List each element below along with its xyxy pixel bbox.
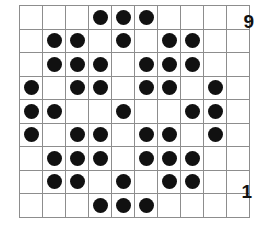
empty-cell	[204, 151, 219, 166]
dot-grid-cell	[204, 29, 227, 53]
dot-grid-cell	[181, 100, 204, 124]
filled-dot	[47, 151, 62, 166]
dot-grid-cell	[43, 147, 66, 171]
dot-grid-cell	[66, 6, 89, 30]
dot-grid-cell	[112, 29, 135, 53]
dot-grid-cell	[89, 194, 112, 218]
dot-grid-cell	[135, 123, 158, 147]
filled-dot	[47, 174, 62, 189]
dot-grid-cell	[227, 53, 250, 77]
empty-cell	[20, 10, 35, 25]
dot-grid-row	[20, 194, 250, 218]
dot-grid-cell	[89, 76, 112, 100]
dot-grid-cell	[20, 100, 43, 124]
empty-cell	[135, 174, 150, 189]
dot-grid-cell	[20, 123, 43, 147]
dot-grid-cell	[20, 53, 43, 77]
empty-cell	[112, 127, 127, 142]
axis-label-bottom-right: 1	[241, 182, 252, 201]
dot-grid-cell	[43, 6, 66, 30]
dot-grid-cell	[66, 123, 89, 147]
dot-grid-cell	[89, 29, 112, 53]
dot-grid-row	[20, 147, 250, 171]
filled-dot	[116, 10, 131, 25]
dot-grid-cell	[227, 100, 250, 124]
dot-grid-cell	[181, 194, 204, 218]
empty-cell	[66, 104, 81, 119]
filled-dot	[139, 198, 154, 213]
filled-dot	[93, 151, 108, 166]
empty-cell	[181, 198, 196, 213]
dot-grid-cell	[204, 170, 227, 194]
filled-dot	[93, 198, 108, 213]
filled-dot	[47, 33, 62, 48]
dot-grid-cell	[112, 123, 135, 147]
empty-cell	[158, 104, 173, 119]
dot-grid-cell	[135, 100, 158, 124]
filled-dot	[185, 104, 200, 119]
filled-dot	[70, 174, 85, 189]
dot-grid-cell	[66, 53, 89, 77]
dot-grid-cell	[43, 100, 66, 124]
empty-cell	[227, 174, 242, 189]
empty-cell	[204, 10, 219, 25]
empty-cell	[135, 104, 150, 119]
filled-dot	[116, 33, 131, 48]
filled-dot	[185, 57, 200, 72]
dot-grid-cell	[158, 194, 181, 218]
dot-grid-row	[20, 6, 250, 30]
dot-grid-cell	[158, 170, 181, 194]
dot-grid-cell	[66, 194, 89, 218]
filled-dot	[47, 57, 62, 72]
filled-dot	[24, 104, 39, 119]
empty-cell	[227, 80, 242, 95]
dot-grid-cell	[181, 147, 204, 171]
empty-cell	[112, 80, 127, 95]
empty-cell	[112, 57, 127, 72]
dot-grid-body	[20, 6, 250, 218]
dot-grid-cell	[181, 6, 204, 30]
dot-grid-cell	[112, 76, 135, 100]
filled-dot	[208, 127, 223, 142]
dot-grid-cell	[204, 6, 227, 30]
empty-cell	[227, 151, 242, 166]
dot-grid-cell	[181, 170, 204, 194]
filled-dot	[24, 80, 39, 95]
empty-cell	[20, 33, 35, 48]
filled-dot	[162, 174, 177, 189]
dot-grid-cell	[112, 6, 135, 30]
empty-cell	[20, 57, 35, 72]
dot-grid-cell	[204, 194, 227, 218]
filled-dot	[70, 151, 85, 166]
dot-grid-cell	[43, 170, 66, 194]
dot-grid-cell	[20, 147, 43, 171]
dot-grid-cell	[20, 6, 43, 30]
axis-label-top-right: 9	[243, 12, 254, 31]
filled-dot	[47, 104, 62, 119]
empty-cell	[227, 104, 242, 119]
empty-cell	[158, 10, 173, 25]
dot-grid-cell	[158, 6, 181, 30]
dot-grid-cell	[135, 29, 158, 53]
filled-dot	[116, 174, 131, 189]
dot-grid-cell	[43, 53, 66, 77]
filled-dot	[139, 127, 154, 142]
dot-grid-row	[20, 76, 250, 100]
dot-grid-cell	[43, 194, 66, 218]
dot-grid-cell	[112, 147, 135, 171]
dot-grid-cell	[158, 53, 181, 77]
empty-cell	[112, 151, 127, 166]
empty-cell	[43, 198, 58, 213]
empty-cell	[43, 127, 58, 142]
dot-grid-cell	[66, 100, 89, 124]
dot-grid-cell	[204, 147, 227, 171]
filled-dot	[162, 57, 177, 72]
filled-dot	[70, 33, 85, 48]
dot-grid-cell	[227, 76, 250, 100]
filled-dot	[139, 80, 154, 95]
dot-grid-cell	[43, 123, 66, 147]
dot-grid-cell	[204, 123, 227, 147]
filled-dot	[139, 151, 154, 166]
filled-dot	[162, 127, 177, 142]
dot-grid-row	[20, 53, 250, 77]
